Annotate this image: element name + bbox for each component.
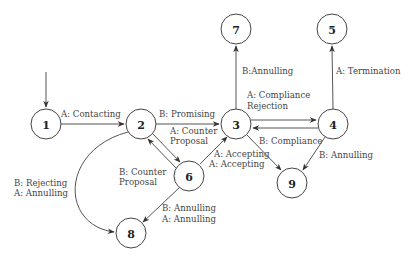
node-9: 9 (277, 168, 307, 198)
svg-text:5: 5 (328, 24, 336, 37)
label-contacting: A: Contacting (60, 109, 121, 119)
label-compliance-rejection-1: A: Compliance (246, 90, 310, 100)
node-8: 8 (116, 218, 146, 248)
svg-text:1: 1 (42, 119, 50, 132)
label-termination: A: Termination (335, 66, 401, 76)
svg-text:2: 2 (137, 119, 145, 132)
node-5: 5 (317, 14, 347, 44)
node-3: 3 (221, 109, 251, 139)
node-4: 4 (318, 109, 348, 139)
label-counter-b-1: B: Counter (119, 167, 167, 177)
svg-text:8: 8 (127, 228, 135, 241)
label-accepting-2: A: Accepting (208, 159, 265, 169)
label-annulling68-1: B: Annulling (162, 203, 217, 213)
label-annulling37: B:Annulling (242, 66, 294, 76)
node-2: 2 (126, 109, 156, 139)
svg-text:3: 3 (232, 119, 240, 132)
svg-text:7: 7 (232, 24, 240, 37)
node-7: 7 (221, 14, 251, 44)
node-1: 1 (31, 109, 61, 139)
label-compliance39: B: Compliance (259, 136, 322, 146)
label-counter-a-2: Proposal (170, 136, 208, 146)
node-6: 6 (174, 161, 204, 191)
label-annulling68-2: A: Annulling (161, 214, 216, 224)
state-diagram: A: Contacting B: Promising A: Counter Pr… (0, 0, 410, 260)
label-counter-b-2: Proposal (119, 177, 157, 187)
svg-text:4: 4 (329, 119, 337, 132)
label-annulling49: B: Annulling (319, 150, 374, 160)
label-accepting-1: A: Accepting (213, 149, 270, 159)
svg-text:6: 6 (185, 171, 193, 184)
edge-4-5 (332, 46, 333, 109)
label-rejecting-1: B: Rejecting (14, 178, 68, 188)
label-rejecting-2: A: Annulling (13, 188, 68, 198)
label-promising: B: Promising (159, 109, 216, 119)
label-compliance-rejection-2: Rejection (247, 101, 288, 111)
label-counter-a-1: A: Counter (169, 126, 218, 136)
svg-text:9: 9 (288, 178, 296, 191)
